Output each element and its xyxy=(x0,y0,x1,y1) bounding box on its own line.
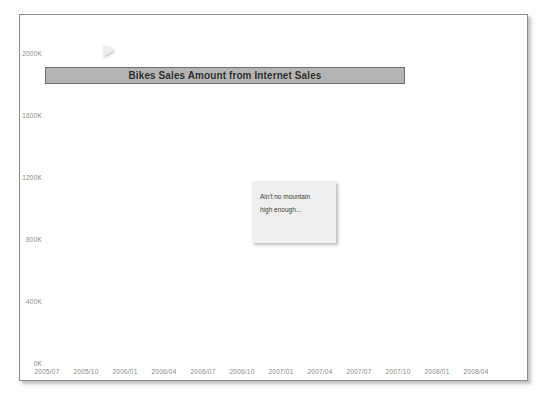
annotation-line: Ain't no mountain xyxy=(260,190,329,203)
x-tick-label: 2007/07 xyxy=(347,368,372,375)
x-tick-label: 2006/04 xyxy=(152,368,177,375)
annotation-callout[interactable]: Ain't no mountain high enough... xyxy=(252,181,336,243)
y-tick-label: 1600K xyxy=(22,112,42,119)
x-tick-label: 2005/07 xyxy=(35,368,60,375)
x-tick-label: 2008/01 xyxy=(425,368,450,375)
y-tick-label: 1200K xyxy=(22,174,42,181)
y-tick-label: 400K xyxy=(26,298,42,305)
scanned-page: 2000K 1600K 1200K 800K 400K 0K 2005/07 2… xyxy=(0,0,547,395)
page-title: Bikes Sales Amount from Internet Sales xyxy=(129,70,322,81)
y-tick-label: 2000K xyxy=(22,50,42,57)
annotation-callout-pointer-icon xyxy=(103,45,115,57)
x-tick-label: 2005/10 xyxy=(74,368,99,375)
x-tick-label: 2006/07 xyxy=(191,368,216,375)
report-frame: 2000K 1600K 1200K 800K 400K 0K 2005/07 2… xyxy=(19,14,528,381)
chart-canvas: 2000K 1600K 1200K 800K 400K 0K 2005/07 2… xyxy=(20,15,529,382)
chart-title-banner: Bikes Sales Amount from Internet Sales xyxy=(45,67,405,84)
annotation-line: high enough... xyxy=(260,203,329,216)
x-tick-label: 2008/04 xyxy=(464,368,489,375)
x-tick-label: 2006/10 xyxy=(230,368,255,375)
x-tick-label: 2007/10 xyxy=(386,368,411,375)
x-tick-label: 2006/01 xyxy=(113,368,138,375)
x-tick-label: 2007/01 xyxy=(269,368,294,375)
x-tick-label: 2007/04 xyxy=(308,368,333,375)
y-tick-label: 800K xyxy=(26,236,42,243)
y-tick-label: 0K xyxy=(34,360,42,367)
annotation-callout-body: Ain't no mountain high enough... xyxy=(252,181,336,243)
